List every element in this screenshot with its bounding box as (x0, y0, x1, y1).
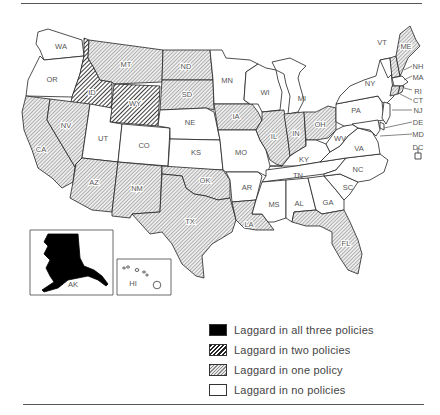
legend-label: Laggard in all three policies (234, 324, 374, 336)
legend-label: Laggard in one policy (234, 364, 343, 376)
state-MA[interactable] (392, 76, 408, 86)
label-ME: ME (400, 42, 411, 51)
label-ND: ND (181, 62, 192, 71)
label-OR: OR (46, 75, 58, 84)
swatch-dense-hatch (209, 344, 227, 356)
label-CT: CT (413, 96, 423, 105)
label-MO: MO (235, 148, 247, 157)
label-NV: NV (61, 121, 71, 130)
label-RI: RI (414, 87, 422, 96)
label-AZ: AZ (89, 178, 99, 187)
legend: Laggard in all three policies Laggard in… (209, 320, 374, 400)
label-MI: MI (298, 94, 306, 103)
label-FL: FL (342, 239, 351, 248)
label-SD: SD (182, 90, 193, 99)
label-MA: MA (412, 73, 423, 82)
label-HI: HI (129, 279, 137, 288)
label-AR: AR (242, 183, 253, 192)
label-ID: ID (88, 88, 96, 97)
label-NM: NM (131, 184, 143, 193)
label-TX: TX (185, 217, 195, 226)
label-MT: MT (121, 60, 132, 69)
label-NE: NE (185, 118, 195, 127)
legend-item-three: Laggard in all three policies (209, 320, 374, 340)
label-UT: UT (98, 134, 108, 143)
swatch-solid-black (209, 324, 227, 336)
label-DC: DC (413, 143, 424, 152)
label-VT: VT (377, 38, 387, 47)
label-NC: NC (353, 165, 364, 174)
label-AK: AK (68, 280, 78, 289)
label-IL: IL (271, 132, 277, 141)
legend-item-one: Laggard in one policy (209, 360, 374, 380)
label-NH: NH (413, 62, 424, 71)
label-MS: MS (268, 200, 279, 209)
label-WI: WI (260, 88, 269, 97)
label-MD: MD (412, 130, 424, 139)
label-CO: CO (138, 141, 149, 150)
label-CA: CA (36, 145, 46, 154)
state-DC[interactable] (415, 153, 421, 159)
label-AL: AL (294, 199, 303, 208)
label-NY: NY (365, 79, 375, 88)
label-MN: MN (221, 76, 233, 85)
label-WA: WA (55, 42, 67, 51)
label-WY: WY (129, 99, 141, 108)
state-DE[interactable] (380, 122, 384, 130)
label-DE: DE (413, 118, 423, 127)
legend-item-two: Laggard in two policies (209, 340, 374, 360)
swatch-white (209, 384, 227, 396)
state-NJ[interactable] (382, 102, 390, 124)
label-KS: KS (191, 148, 201, 157)
legend-item-none: Laggard in no policies (209, 380, 374, 400)
hawaii-inset (117, 259, 171, 295)
label-WV: WV (334, 134, 346, 143)
label-NJ: NJ (413, 106, 422, 115)
label-TN: TN (293, 171, 303, 180)
label-OH: OH (314, 120, 325, 129)
label-LA: LA (244, 220, 253, 229)
label-IA: IA (232, 112, 239, 121)
legend-label: Laggard in no policies (234, 384, 345, 396)
state-FL[interactable] (292, 210, 362, 274)
swatch-light-hatch (209, 364, 227, 376)
label-OK: OK (200, 176, 211, 185)
label-VA: VA (354, 144, 363, 153)
label-PA: PA (351, 106, 360, 115)
label-GA: GA (323, 198, 334, 207)
label-IN: IN (292, 129, 300, 138)
legend-label: Laggard in two policies (234, 344, 351, 356)
label-KY: KY (299, 155, 309, 164)
label-SC: SC (343, 183, 354, 192)
